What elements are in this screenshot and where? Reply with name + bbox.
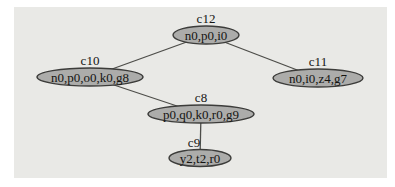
node-text-c10: n0,p0,o0,k0,g8 (51, 70, 129, 85)
node-text-c8: p0,q0,k0,r0,g9 (163, 107, 239, 122)
node-label-c9: c9 (188, 135, 200, 150)
node-label-c10: c10 (81, 53, 100, 68)
node-label-c11: c11 (309, 54, 327, 69)
node-label-c8: c8 (195, 90, 207, 105)
cluster-graph-diagram: n0,p0,i0c12n0,p0,o0,k0,g8c10n0,i0,z4,g7c… (0, 0, 395, 187)
node-text-c9: y2,t2,r0 (180, 151, 220, 166)
node-label-c12: c12 (197, 11, 216, 26)
figure-canvas: n0,p0,i0c12n0,p0,o0,k0,g8c10n0,i0,z4,g7c… (0, 0, 395, 187)
node-text-c12: n0,p0,i0 (185, 28, 228, 43)
node-text-c11: n0,i0,z4,g7 (289, 71, 348, 86)
